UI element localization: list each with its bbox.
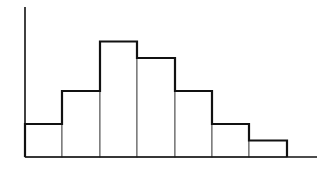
histogram-bar <box>249 141 287 158</box>
histogram-bar <box>137 58 175 157</box>
histogram-bar <box>100 42 137 158</box>
histogram-bar <box>175 91 212 157</box>
histogram-bar <box>212 124 249 157</box>
histogram-bar <box>62 91 100 157</box>
histogram-bar <box>25 124 62 157</box>
histogram-chart <box>0 0 327 169</box>
